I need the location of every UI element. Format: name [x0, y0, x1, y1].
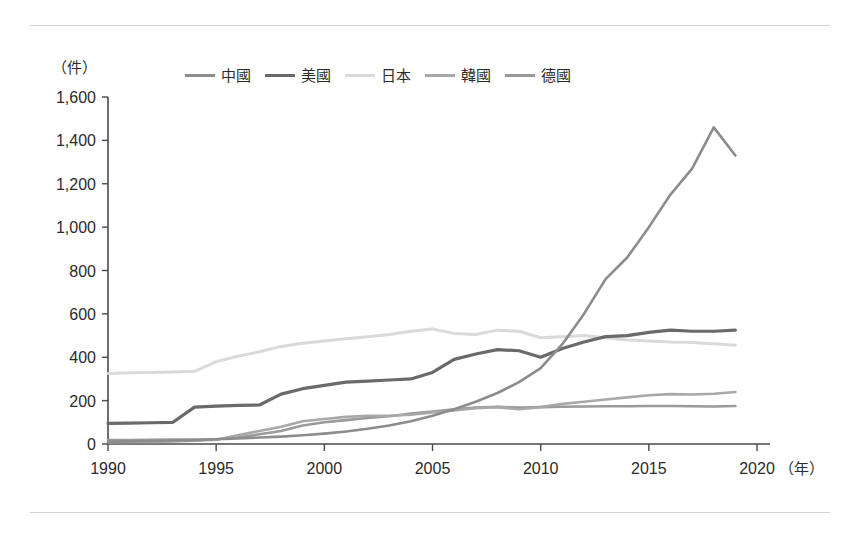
y-axis-tick-label: 1,200	[56, 176, 96, 193]
y-axis-tick-label: 0	[87, 436, 96, 453]
y-axis-tick-label: 1,000	[56, 219, 96, 236]
x-axis-tick-label: 1990	[90, 460, 126, 477]
plot-area: 02004006008001,0001,2001,4001,6001990199…	[0, 0, 859, 536]
y-axis-tick-label: 1,600	[56, 89, 96, 106]
x-axis-tick-label: 2020	[739, 460, 775, 477]
series-line-4	[108, 406, 735, 440]
series-line-1	[108, 330, 735, 423]
x-axis-tick-label: 2015	[631, 460, 667, 477]
y-axis-tick-label: 1,400	[56, 132, 96, 149]
line-chart-svg: 02004006008001,0001,2001,4001,6001990199…	[0, 0, 859, 536]
x-axis-tick-label: 2000	[307, 460, 343, 477]
x-axis-tick-label: 1995	[198, 460, 234, 477]
x-axis-unit-label: （年）	[779, 460, 824, 477]
y-axis-tick-label: 200	[69, 393, 96, 410]
series-line-2	[108, 329, 735, 373]
y-axis-tick-label: 800	[69, 263, 96, 280]
series-line-3	[108, 392, 735, 442]
chart-figure: （件） 中國美國日本韓國德國 02004006008001,0001,2001,…	[0, 0, 859, 536]
y-axis-tick-label: 600	[69, 306, 96, 323]
x-axis-tick-label: 2005	[415, 460, 451, 477]
x-axis-tick-label: 2010	[523, 460, 559, 477]
y-axis-tick-label: 400	[69, 349, 96, 366]
